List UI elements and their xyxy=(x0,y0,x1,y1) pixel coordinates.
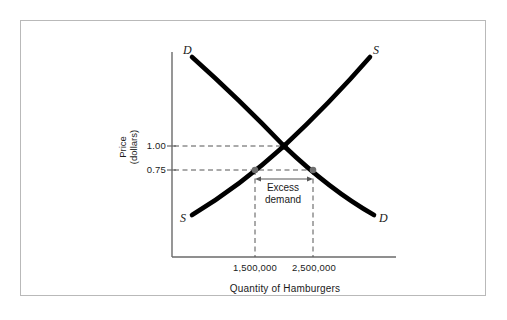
quantity-supplied-marker xyxy=(252,167,259,174)
y-tick-label-1-00: 1.00 xyxy=(140,140,166,151)
supply-curve-label-top: S xyxy=(373,43,379,58)
equilibrium-point-marker xyxy=(280,142,287,149)
supply-curve-label-bottom: S xyxy=(180,211,186,226)
excess-demand-line1: Excess xyxy=(243,182,323,194)
x-axis-title: Quantity of Hamburgers xyxy=(195,283,375,294)
y-axis-title-line1: Price xyxy=(117,107,128,187)
demand-curve-label-bottom: D xyxy=(379,211,388,226)
y-axis-title: Price (dollars) xyxy=(117,107,139,187)
x-tick-label-2500000: 2,500,000 xyxy=(272,262,356,273)
demand-curve-label-top: D xyxy=(183,43,192,58)
excess-demand-line2: demand xyxy=(243,194,323,206)
quantity-demanded-marker xyxy=(310,167,317,174)
figure-page: 1.00 0.75 1,500,000 2,500,000 Quantity o… xyxy=(0,0,507,320)
excess-demand-arrow xyxy=(255,176,313,181)
y-axis-title-line2: (dollars) xyxy=(128,107,139,187)
excess-demand-annotation: Excess demand xyxy=(243,182,323,206)
y-tick-label-0-75: 0.75 xyxy=(140,164,166,175)
